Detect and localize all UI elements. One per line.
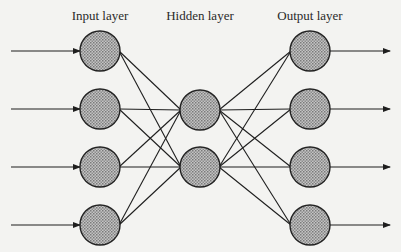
- input-neuron: [80, 89, 120, 129]
- input-neuron: [80, 31, 120, 71]
- hidden-layer-label: Hidden layer: [166, 8, 234, 23]
- hidden-neuron: [180, 90, 220, 130]
- connections: [119, 51, 291, 225]
- output-layer-label: Output layer: [277, 8, 343, 23]
- output-neuron: [290, 147, 330, 187]
- output-neuron: [290, 89, 330, 129]
- edge-input-hidden: [119, 51, 181, 110]
- neural-network-diagram: Input layer Hidden layer Output layer: [0, 0, 401, 252]
- edge-hidden-output: [219, 51, 291, 110]
- output-neuron: [290, 205, 330, 245]
- input-neuron: [80, 147, 120, 187]
- edge-input-hidden: [119, 109, 181, 110]
- edge-hidden-output: [219, 167, 291, 225]
- hidden-neuron: [180, 147, 220, 187]
- io-arrows: [11, 51, 390, 225]
- output-neuron: [290, 31, 330, 71]
- input-neuron: [80, 205, 120, 245]
- neurons: [80, 31, 330, 245]
- input-layer-label: Input layer: [72, 8, 129, 23]
- edge-input-hidden: [119, 167, 181, 225]
